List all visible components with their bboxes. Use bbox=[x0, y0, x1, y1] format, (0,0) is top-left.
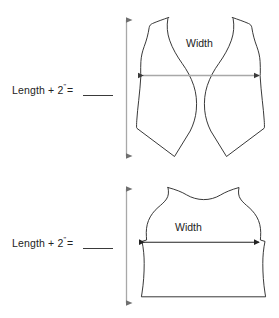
width-label-back: Width bbox=[175, 221, 202, 233]
vest-front-right-panel bbox=[204, 18, 264, 157]
width-label-front: Width bbox=[186, 37, 213, 49]
diagram-vest-front: Length + 2"= bbox=[0, 0, 279, 168]
vest-front-figure: Width bbox=[0, 0, 279, 168]
diagram-vest-back: Length + 2"= Width bbox=[0, 168, 279, 318]
diagram-sheet: Length + 2"= bbox=[0, 0, 279, 318]
vest-back-figure: Width bbox=[0, 168, 279, 318]
